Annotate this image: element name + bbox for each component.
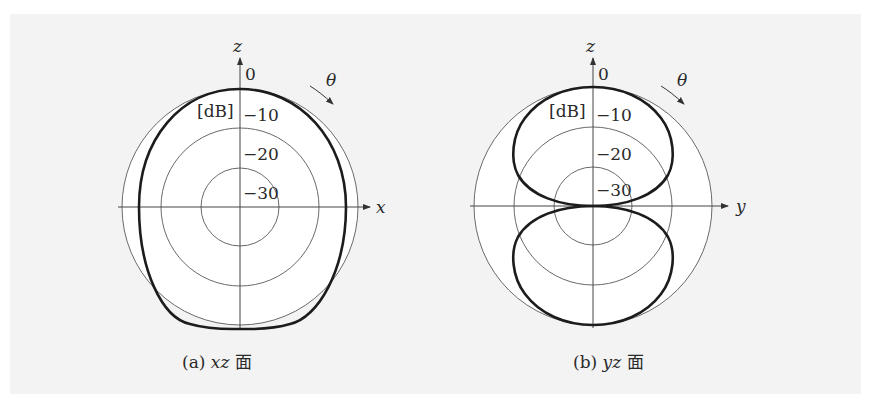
y-axis-label: y bbox=[735, 196, 746, 216]
z-axis-label: z bbox=[585, 36, 596, 56]
ring-label-minus30: −30 bbox=[596, 180, 632, 200]
x-axis-label: x bbox=[376, 197, 386, 217]
radiation-pattern-figure: z x 0 −10 −20 −30 [dB] θ (a) xz 面 z y 0 … bbox=[10, 14, 861, 394]
unit-label-db: [dB] bbox=[197, 101, 234, 121]
caption-a: (a) xz 面 bbox=[182, 352, 252, 372]
ring-label-0: 0 bbox=[245, 64, 256, 84]
ring-label-0: 0 bbox=[598, 64, 609, 84]
theta-label: θ bbox=[677, 70, 687, 90]
unit-label-db: [dB] bbox=[549, 101, 586, 121]
panel-b-yz-plane: z y 0 −10 −20 −30 [dB] θ (b) yz 面 bbox=[470, 36, 746, 372]
caption-b: (b) yz 面 bbox=[573, 352, 644, 372]
ring-label-minus10: −10 bbox=[243, 105, 279, 125]
theta-label: θ bbox=[326, 70, 336, 90]
ring-label-minus30: −30 bbox=[243, 183, 279, 203]
figure-page: z x 0 −10 −20 −30 [dB] θ (a) xz 面 z y 0 … bbox=[10, 14, 861, 394]
panel-a-xz-plane: z x 0 −10 −20 −30 [dB] θ (a) xz 面 bbox=[118, 36, 386, 372]
z-axis-label: z bbox=[232, 36, 243, 56]
ring-label-minus20: −20 bbox=[596, 144, 632, 164]
ring-label-minus10: −10 bbox=[596, 105, 632, 125]
ring-label-minus20: −20 bbox=[243, 144, 279, 164]
